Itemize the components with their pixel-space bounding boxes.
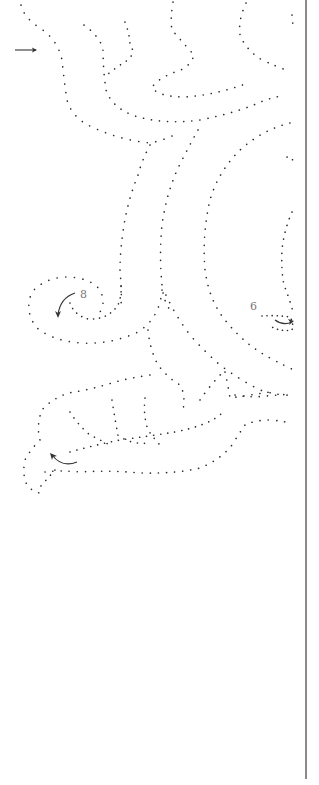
curve-hook bbox=[108, 22, 133, 74]
curve-bottom-lobe-3 bbox=[144, 398, 160, 445]
curve-spiral-outer bbox=[29, 277, 162, 343]
curve-lower-middle bbox=[148, 330, 184, 410]
curve-bottom-lobe-2 bbox=[112, 400, 150, 443]
spiral-arrow-icon bbox=[55, 293, 75, 318]
curve-bottom-leaf-outer bbox=[24, 375, 150, 493]
direction-arrows bbox=[15, 48, 294, 464]
curve-outer-left bbox=[21, 5, 178, 143]
bottom-curl-arrow-icon bbox=[50, 453, 77, 464]
curve-column-left bbox=[120, 145, 150, 305]
curve-lower-right-wave bbox=[200, 370, 290, 400]
curve-inner-left bbox=[84, 25, 285, 122]
page-border-line bbox=[305, 0, 307, 779]
curve-column-right bbox=[204, 123, 294, 370]
curve-upper-right bbox=[240, 3, 286, 70]
start-arrow-icon bbox=[15, 48, 37, 53]
step-label-8: 8 bbox=[80, 289, 87, 300]
curve-bottom-curl bbox=[40, 413, 222, 487]
curve-right-inner bbox=[282, 212, 293, 312]
curve-lower-branch bbox=[225, 372, 270, 398]
dot-pattern-canvas bbox=[0, 0, 319, 785]
curve-right-stub bbox=[287, 157, 293, 160]
curve-spiral-inner bbox=[70, 285, 121, 319]
curve-bottom-base bbox=[45, 420, 292, 473]
step-label-6: 6 bbox=[250, 301, 257, 312]
curve-diagonal-lower bbox=[166, 295, 292, 395]
curve-column-middle bbox=[161, 130, 199, 310]
curve-upper-loop bbox=[152, 2, 245, 97]
curve-bottom-lobe-1 bbox=[70, 412, 110, 445]
curve-top-edge-right bbox=[292, 15, 293, 25]
dot-curves bbox=[21, 2, 294, 493]
